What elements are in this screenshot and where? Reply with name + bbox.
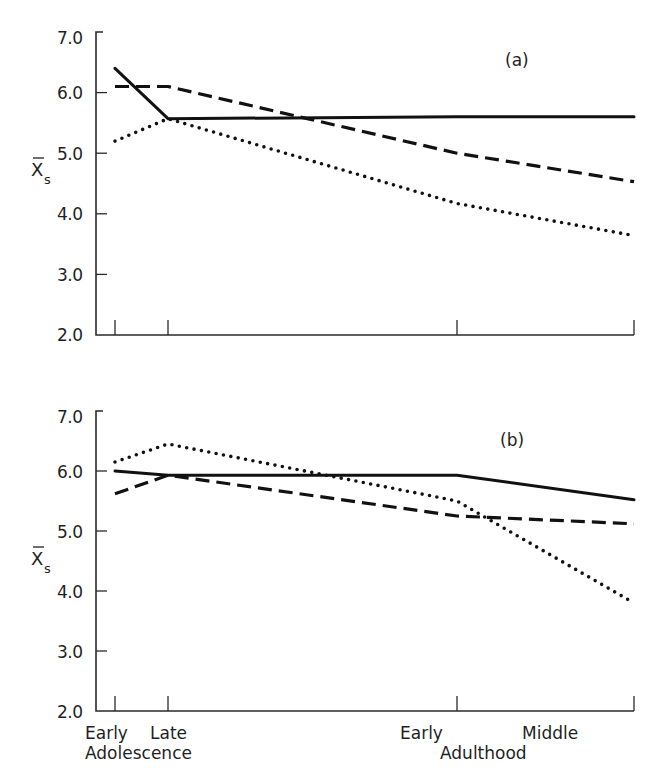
panel-a-x-ticks <box>115 320 634 335</box>
x-axis-category-labels: Early Late Adolescence Early Middle Adul… <box>85 723 578 763</box>
x-label-early-adulthood: Early <box>400 723 443 743</box>
y-tick-label: 3.0 <box>57 265 83 285</box>
y-label-main: X <box>31 159 43 180</box>
x-label-adulthood-group: Adulthood <box>440 743 527 763</box>
panel-b-label: (b) <box>500 430 524 450</box>
y-tick-label: 2.0 <box>57 702 83 722</box>
panel-b-series-dotted <box>115 444 634 603</box>
x-label-early-adolescence: Early <box>85 723 128 743</box>
panel-a-series-solid <box>115 68 634 118</box>
y-tick-label: 5.0 <box>57 144 83 164</box>
y-tick-label: 5.0 <box>57 522 83 542</box>
y-tick-label: 6.0 <box>57 83 83 103</box>
panel-b-y-axis-label: X s <box>31 547 51 576</box>
panel-b-series-dashed <box>115 475 634 524</box>
y-tick-label: 2.0 <box>57 325 83 345</box>
y-label-sub: s <box>44 561 51 576</box>
panel-b-series-solid <box>115 471 634 500</box>
panel-a-y-axis-label: X s <box>31 158 51 187</box>
panel-a-chart: 7.0 6.0 5.0 4.0 3.0 2.0 X s (a) <box>31 28 634 345</box>
figure: 7.0 6.0 5.0 4.0 3.0 2.0 X s (a) <box>0 0 662 777</box>
panel-b-axes <box>96 411 634 711</box>
x-label-middle-adulthood: Middle <box>522 723 578 743</box>
panel-b-y-ticks <box>96 471 107 651</box>
y-tick-label: 6.0 <box>57 462 83 482</box>
panel-a-y-ticks <box>96 93 107 275</box>
panel-a-axes <box>96 32 634 335</box>
y-tick-label: 4.0 <box>57 204 83 224</box>
y-tick-label: 7.0 <box>57 28 83 48</box>
panel-a-series-dashed <box>115 87 634 182</box>
y-tick-label: 7.0 <box>57 407 83 427</box>
panel-b-x-ticks <box>115 696 634 711</box>
y-label-sub: s <box>44 172 51 187</box>
panel-a-series-dotted <box>115 119 634 236</box>
panel-a-y-tick-labels: 7.0 6.0 5.0 4.0 3.0 2.0 <box>57 28 83 345</box>
x-label-late-adolescence: Late <box>150 723 187 743</box>
panel-b-y-tick-labels: 7.0 6.0 5.0 4.0 3.0 2.0 <box>57 407 83 722</box>
panel-a-label: (a) <box>505 50 529 70</box>
x-label-adolescence-group: Adolescence <box>85 743 192 763</box>
y-tick-label: 4.0 <box>57 582 83 602</box>
y-tick-label: 3.0 <box>57 642 83 662</box>
y-label-main: X <box>31 548 43 569</box>
panel-b-chart: 7.0 6.0 5.0 4.0 3.0 2.0 X s (b) <box>31 407 634 722</box>
